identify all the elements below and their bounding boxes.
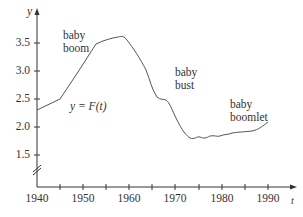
- annotation-baby-bust: baby bust: [175, 66, 197, 92]
- y-axis-arrow-icon: [35, 8, 40, 15]
- y-tick-label: 2.0: [0, 120, 30, 132]
- y-tick-label: 3.0: [0, 64, 30, 76]
- x-tick-label: 1980: [207, 192, 237, 204]
- x-tick-label: 1970: [160, 192, 190, 204]
- annotation-line: bust: [175, 79, 197, 92]
- x-axis-label: t: [291, 194, 294, 207]
- curve-label: y = F(t): [70, 100, 107, 113]
- annotation-line: baby: [175, 66, 197, 79]
- x-axis-arrow-icon: [290, 185, 297, 190]
- annotation-baby-boom: baby boom: [63, 29, 89, 55]
- x-tick-label: 1960: [114, 192, 144, 204]
- annotation-line: baby: [63, 29, 89, 42]
- y-axis-label: y: [27, 5, 32, 18]
- x-tick-label: 1940: [22, 192, 52, 204]
- x-tick-label: 1990: [253, 192, 283, 204]
- annotation-line: boomlet: [230, 111, 268, 124]
- y-tick-label: 2.5: [0, 92, 30, 104]
- x-tick-label: 1950: [68, 192, 98, 204]
- annotation-baby-boomlet: baby boomlet: [230, 98, 268, 124]
- y-tick-label: 3.5: [0, 36, 30, 48]
- annotation-line: baby: [230, 98, 268, 111]
- y-tick-label: 1.5: [0, 148, 30, 160]
- annotation-line: boom: [63, 42, 89, 55]
